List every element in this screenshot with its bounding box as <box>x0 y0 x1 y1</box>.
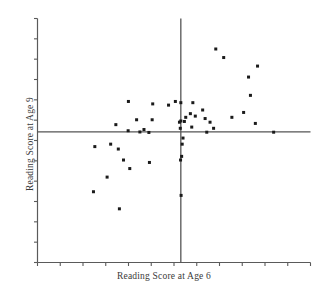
data-point <box>242 111 245 114</box>
data-point <box>167 104 170 107</box>
data-point <box>180 194 183 197</box>
data-point <box>209 121 212 124</box>
data-point <box>179 127 182 130</box>
axes-group <box>34 19 311 267</box>
data-point <box>151 102 154 105</box>
data-point <box>256 65 259 68</box>
data-point <box>147 131 150 134</box>
y-axis-label: Reading Score at Age 9 <box>25 49 35 239</box>
data-point <box>212 127 215 130</box>
data-point <box>194 115 197 118</box>
data-point <box>204 117 207 120</box>
reference-lines-group <box>38 19 311 263</box>
data-point <box>182 137 185 140</box>
data-point <box>181 143 184 146</box>
data-point <box>201 109 204 112</box>
data-point <box>178 121 181 124</box>
data-point <box>106 176 109 179</box>
data-point <box>180 155 183 158</box>
data-point <box>114 123 117 126</box>
data-point <box>179 101 182 104</box>
data-point <box>135 118 138 121</box>
data-point <box>190 126 193 129</box>
data-point <box>179 159 182 162</box>
data-point <box>191 101 194 104</box>
data-point <box>151 118 154 121</box>
data-point <box>189 112 192 115</box>
scatter-plot-figure: Reading Score at Age 6 Reading Score at … <box>0 0 328 294</box>
data-point <box>222 56 225 59</box>
data-point <box>230 116 233 119</box>
data-point <box>122 159 125 162</box>
data-point <box>214 48 217 51</box>
data-points-group <box>92 48 275 211</box>
data-point <box>247 76 250 79</box>
data-point <box>249 94 252 97</box>
data-point <box>148 161 151 164</box>
x-axis-label: Reading Score at Age 6 <box>0 271 328 281</box>
data-point <box>142 128 145 131</box>
scatter-plot-canvas <box>0 0 328 294</box>
data-point <box>127 129 130 132</box>
data-point <box>254 122 257 125</box>
data-point <box>128 167 131 170</box>
data-point <box>109 143 112 146</box>
data-point <box>93 145 96 148</box>
data-point <box>138 130 141 133</box>
data-point <box>184 116 187 119</box>
data-point <box>205 131 208 134</box>
data-point <box>272 131 275 134</box>
data-point <box>92 190 95 193</box>
data-point <box>117 148 120 151</box>
data-point <box>127 100 130 103</box>
data-point <box>118 207 121 210</box>
data-point <box>174 100 177 103</box>
data-point <box>183 120 186 123</box>
